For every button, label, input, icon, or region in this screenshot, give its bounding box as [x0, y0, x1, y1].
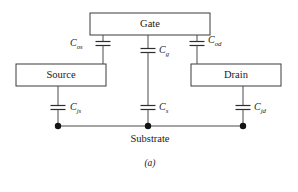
node-source-substrate — [55, 123, 61, 129]
circuit-schematic: Gate Source Drain Cos Cg Cs — [0, 0, 298, 192]
cos-label-sub: os — [77, 43, 83, 50]
cjd-label: Cjd — [254, 101, 267, 114]
gate-box-label: Gate — [140, 18, 160, 29]
cs-label-sub: s — [166, 107, 169, 114]
node-center-substrate — [145, 123, 151, 129]
drain-box-label: Drain — [224, 69, 249, 80]
cod-label-sub: od — [215, 40, 222, 47]
figure-caption: (a) — [144, 158, 155, 169]
cos-label: Cos — [70, 37, 83, 50]
cg-label: Cg — [159, 44, 170, 57]
node-drain-substrate — [240, 123, 246, 129]
cjs-label: Cjs — [70, 101, 82, 114]
cg-label-sub: g — [166, 50, 170, 57]
cod-label: Cod — [208, 34, 222, 47]
source-box-label: Source — [46, 69, 75, 80]
mosfet-capacitance-figure: Gate Source Drain Cos Cg Cs — [0, 0, 298, 192]
cjs-label-sub: js — [76, 107, 82, 114]
cjd-label-sub: jd — [260, 107, 267, 114]
substrate-label: Substrate — [130, 133, 169, 144]
cs-label: Cs — [159, 101, 169, 114]
